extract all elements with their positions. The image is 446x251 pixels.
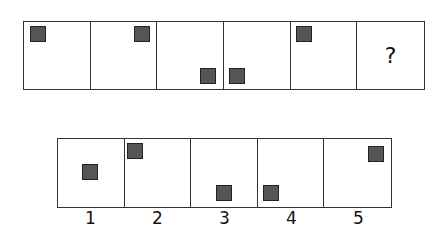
option-2[interactable] [125,139,192,207]
option-label-1: 1 [57,208,124,228]
sequence-cell-5 [291,22,358,89]
square-shape [216,185,232,201]
option-label-5: 5 [325,208,392,228]
option-labels: 1 2 3 4 5 [57,208,392,228]
sequence-cell-3 [157,22,224,89]
question-mark: ? [357,22,424,89]
square-shape [127,143,143,159]
question-sequence: ? [23,21,425,90]
option-label-3: 3 [191,208,258,228]
option-label-4: 4 [258,208,325,228]
answer-options [57,138,392,208]
square-shape [200,68,216,84]
option-1[interactable] [58,139,125,207]
option-4[interactable] [258,139,325,207]
square-shape [296,26,312,42]
square-shape [229,68,245,84]
sequence-cell-1 [24,22,91,89]
sequence-cell-2 [91,22,158,89]
option-3[interactable] [191,139,258,207]
square-shape [30,26,46,42]
square-shape [134,26,150,42]
square-shape [263,185,279,201]
square-shape [82,164,98,180]
sequence-cell-missing: ? [357,22,424,89]
option-label-2: 2 [124,208,191,228]
sequence-cell-4 [224,22,291,89]
square-shape [368,146,384,162]
option-5[interactable] [324,139,391,207]
